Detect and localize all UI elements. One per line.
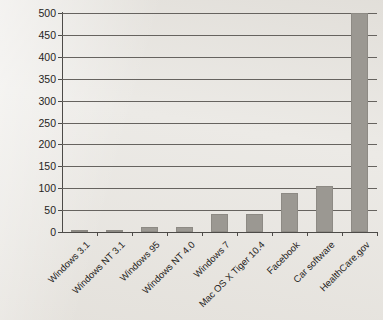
y-tick-mark <box>58 79 62 80</box>
y-tick-mark <box>58 123 62 124</box>
y-tick-label: 100 <box>38 182 56 194</box>
y-tick-mark <box>58 57 62 58</box>
gridline <box>62 123 377 124</box>
y-axis-title-text: SLOC in Millions <box>2 0 20 31</box>
y-tick-mark <box>58 210 62 211</box>
y-tick-label: 50 <box>44 204 56 216</box>
bar <box>71 230 88 232</box>
gridline <box>62 144 377 145</box>
bar-chart: SLOC in Millions 05010015020025030035040… <box>0 0 383 320</box>
y-tick-label: 500 <box>38 7 56 19</box>
y-tick-label: 200 <box>38 138 56 150</box>
gridline <box>62 57 377 58</box>
y-axis-title: SLOC in Millions <box>2 0 20 31</box>
bar <box>106 230 123 232</box>
x-axis-line <box>62 232 377 233</box>
plot-area: 050100150200250300350400450500 <box>62 13 377 232</box>
y-tick-label: 0 <box>50 226 56 238</box>
y-tick-label: 450 <box>38 29 56 41</box>
gridline <box>62 13 377 14</box>
y-tick-label: 150 <box>38 160 56 172</box>
y-tick-mark <box>58 188 62 189</box>
y-tick-mark <box>58 144 62 145</box>
y-tick-mark <box>58 13 62 14</box>
y-tick-mark <box>58 101 62 102</box>
bar <box>351 13 368 232</box>
gridline <box>62 35 377 36</box>
gridline <box>62 101 377 102</box>
y-tick-label: 300 <box>38 95 56 107</box>
y-tick-label: 400 <box>38 51 56 63</box>
gridline <box>62 79 377 80</box>
y-tick-mark <box>58 232 62 233</box>
y-tick-label: 350 <box>38 73 56 85</box>
x-axis-label-text: Mac OS X Tiger 10.4 <box>196 239 266 309</box>
y-tick-label: 250 <box>38 117 56 129</box>
gridline <box>62 166 377 167</box>
y-tick-mark <box>58 166 62 167</box>
y-tick-mark <box>58 35 62 36</box>
